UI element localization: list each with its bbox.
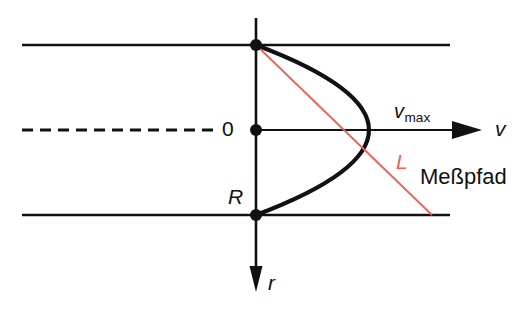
wall-point-top-dot xyxy=(250,39,262,51)
v-axis-label: v xyxy=(495,118,506,139)
diagram-canvas xyxy=(0,0,526,310)
v-max-subscript: max xyxy=(405,110,431,125)
velocity-profile-figure: 0 R r v vmax L Meßpfad xyxy=(0,0,526,310)
v-axis-arrowhead-icon xyxy=(452,121,482,139)
v-max-label: vmax xyxy=(394,101,430,121)
r-axis-arrowhead-icon xyxy=(250,266,263,292)
path-length-label: L xyxy=(396,151,408,172)
origin-label: 0 xyxy=(222,118,234,139)
messpfad-caption: Meßpfad xyxy=(420,166,507,188)
radius-label: R xyxy=(228,186,243,207)
origin-point-dot xyxy=(250,124,262,136)
wall-point-bottom-dot xyxy=(250,209,262,221)
r-axis-label: r xyxy=(268,272,275,293)
v-max-base: v xyxy=(394,100,404,122)
